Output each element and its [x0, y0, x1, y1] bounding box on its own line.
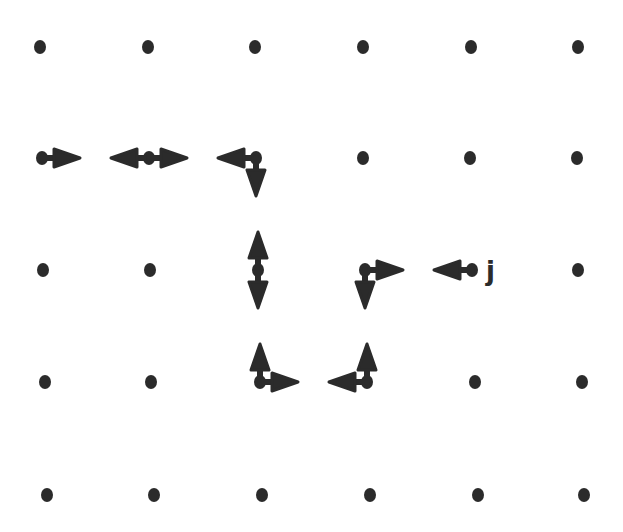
grid-dot	[472, 488, 484, 502]
grid-dot	[144, 263, 156, 277]
arrow-up-head-icon	[249, 232, 267, 258]
arrow-right-head-icon	[161, 149, 187, 167]
grid-dot	[256, 488, 268, 502]
grid-dot	[578, 488, 590, 502]
arrow-left-head-icon	[434, 261, 460, 279]
grid-dot	[249, 40, 261, 54]
arrow-down-head-icon	[247, 170, 265, 196]
grid-dot	[572, 40, 584, 54]
grid-dot	[464, 151, 476, 165]
arrows	[42, 149, 472, 391]
arrow-up-head-icon	[251, 344, 269, 370]
grid-dot	[469, 375, 481, 389]
grid-dot	[145, 375, 157, 389]
grid-dot	[148, 488, 160, 502]
node-arrows	[251, 344, 298, 391]
grid-dot	[142, 40, 154, 54]
node-arrows	[434, 261, 472, 279]
arrow-up-head-icon	[358, 344, 376, 370]
node-arrows	[329, 344, 376, 391]
grid-dot	[364, 488, 376, 502]
arrow-down-head-icon	[249, 282, 267, 308]
arrow-left-head-icon	[218, 149, 244, 167]
node-label-j: j	[485, 256, 495, 286]
arrow-down-head-icon	[356, 282, 374, 308]
grid-dot	[34, 40, 46, 54]
grid-dot	[37, 263, 49, 277]
arrow-right-head-icon	[272, 373, 298, 391]
arrow-right-head-icon	[377, 261, 403, 279]
labels: j	[485, 256, 495, 286]
grid-dot	[576, 375, 588, 389]
grid-diagram: j	[0, 0, 623, 532]
node-arrows	[218, 149, 265, 196]
grid-dot	[41, 488, 53, 502]
grid-dots	[34, 40, 590, 502]
arrow-left-head-icon	[329, 373, 355, 391]
arrow-left-head-icon	[111, 149, 137, 167]
grid-dot	[465, 40, 477, 54]
grid-dot	[357, 40, 369, 54]
node-arrows	[42, 149, 80, 167]
grid-dot	[39, 375, 51, 389]
grid-dot	[572, 263, 584, 277]
node-arrows	[356, 261, 403, 308]
grid-dot	[357, 151, 369, 165]
arrow-right-head-icon	[54, 149, 80, 167]
node-arrows	[249, 232, 267, 308]
grid-dot	[571, 151, 583, 165]
